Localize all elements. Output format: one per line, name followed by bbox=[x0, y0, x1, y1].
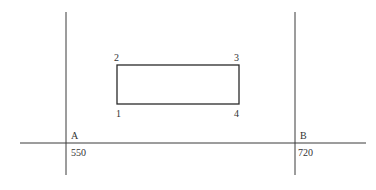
line-label-b: B bbox=[300, 130, 307, 141]
corner-label-3: 3 bbox=[234, 52, 239, 63]
diagram-canvas: 2 3 1 4 A B 550 720 bbox=[0, 0, 376, 190]
corner-label-1: 1 bbox=[116, 108, 121, 119]
line-value-b: 720 bbox=[298, 147, 313, 158]
line-value-a: 550 bbox=[71, 147, 86, 158]
rectangle-shape bbox=[117, 65, 239, 104]
corner-label-2: 2 bbox=[114, 52, 119, 63]
line-label-a: A bbox=[71, 130, 79, 141]
corner-label-4: 4 bbox=[234, 108, 239, 119]
